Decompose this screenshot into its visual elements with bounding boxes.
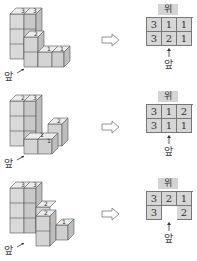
front-label: 앞	[4, 155, 13, 170]
grid-cell: 3	[147, 192, 162, 206]
count-grid: 3 1 2 3 1 1	[146, 104, 193, 133]
cube-label: 1	[62, 218, 66, 225]
front-label: 앞	[4, 68, 13, 83]
grid-cell: 1	[162, 18, 177, 32]
cube-label: 3	[21, 181, 25, 188]
grid-cell: 3	[147, 18, 162, 32]
cube-label: 2	[34, 30, 38, 37]
cube-label: 1	[47, 137, 51, 144]
diagram-row-2: 2 3 2 1 1 앞 위 3 1 2 3 1 1 앞	[0, 87, 197, 174]
cube-label: 1	[60, 45, 64, 52]
right-arrow-icon	[101, 33, 121, 47]
grid-cell: 1	[177, 119, 192, 133]
right-arrow-icon	[101, 120, 121, 134]
top-label: 위	[158, 91, 178, 102]
grid-cell: 3	[147, 206, 162, 220]
grid-cell: 3	[147, 119, 162, 133]
grid-cell: 2	[177, 105, 192, 119]
front-label: 앞	[160, 230, 176, 245]
cube-label: 1	[47, 45, 51, 52]
front-label: 앞	[160, 143, 176, 158]
diagram-row-3: 3 3 2 2 1 앞 위 3 2 1 3 2 앞	[0, 174, 197, 261]
cube-label: 1	[40, 131, 44, 138]
grid-cell: 1	[177, 32, 192, 46]
grid-cell-empty	[162, 206, 177, 220]
grid-cell: 2	[162, 192, 177, 206]
front-label: 앞	[4, 242, 13, 257]
cube-label: 3	[33, 181, 37, 188]
grid-cell: 3	[147, 32, 162, 46]
right-arrow-icon	[101, 207, 121, 221]
cube-label: 3	[33, 7, 37, 14]
grid-cell: 3	[147, 105, 162, 119]
count-grid: 3 1 1 3 2 1	[146, 17, 193, 46]
count-grid: 3 2 1 3 2	[146, 191, 193, 220]
grid-cell: 2	[162, 32, 177, 46]
grid-cell: 1	[162, 105, 177, 119]
cube-label: 2	[21, 94, 25, 101]
diagram-row-1: 3 3 2 1 1 앞 위 3 1 1 3 2 1 앞	[0, 0, 197, 87]
cube-label: 2	[44, 209, 48, 216]
cube-label: 2	[57, 117, 61, 124]
front-label: 앞	[160, 56, 176, 71]
grid-cell: 2	[177, 206, 192, 220]
top-label: 위	[158, 4, 178, 15]
grid-cell: 1	[177, 192, 192, 206]
cube-label: 3	[21, 7, 25, 14]
cube-label: 3	[33, 94, 37, 101]
top-label: 위	[158, 178, 178, 189]
grid-cell: 1	[162, 119, 177, 133]
cube-label: 2	[44, 200, 48, 207]
grid-cell: 1	[177, 18, 192, 32]
